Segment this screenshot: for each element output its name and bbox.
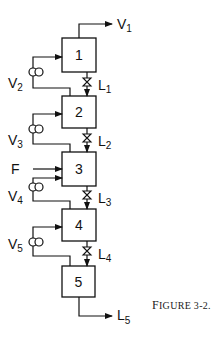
valve-icon <box>83 78 91 86</box>
l5-label: L5 <box>117 307 131 326</box>
v5-label: V5 <box>8 236 23 254</box>
stage-3: 3 <box>62 152 96 186</box>
cascade-diagram: 1 2 3 4 5 V1 L5 V2 <box>0 0 211 338</box>
valve-icon <box>83 247 91 255</box>
v4-label: V4 <box>8 188 23 206</box>
stream-l1: L1 <box>83 72 112 96</box>
l3-label: L3 <box>98 190 112 208</box>
compressor-icon <box>29 125 43 133</box>
v1-label: V1 <box>117 16 132 34</box>
figure-caption: FIGURE 3-2. <box>152 298 211 312</box>
compressor-icon <box>29 183 43 191</box>
stream-l3: L3 <box>83 186 112 209</box>
l2-label: L2 <box>98 133 112 151</box>
v3-label: V3 <box>8 132 23 150</box>
valve-icon <box>83 191 91 199</box>
compressor-icon <box>29 68 43 76</box>
stage-2: 2 <box>62 96 96 128</box>
stream-l4: L4 <box>83 241 112 266</box>
arrow-icon <box>79 24 112 38</box>
stream-v1: V1 <box>79 16 132 38</box>
stage-3-label: 3 <box>75 161 83 177</box>
compressor-icon <box>29 238 43 246</box>
feed-label: F <box>11 161 20 177</box>
stream-v5: V5 <box>8 227 70 266</box>
stage-4-label: 4 <box>75 217 83 233</box>
valve-icon <box>83 134 91 142</box>
stream-l5: L5 <box>79 297 131 326</box>
stage-2-label: 2 <box>75 104 83 120</box>
stage-5-label: 5 <box>75 274 83 290</box>
stream-l2: L2 <box>83 128 112 152</box>
stage-4: 4 <box>62 209 96 241</box>
arrow-icon <box>79 297 112 316</box>
stream-v3: V3 <box>8 114 70 152</box>
l1-label: L1 <box>98 77 112 95</box>
stage-1: 1 <box>62 38 96 72</box>
v2-label: V2 <box>8 75 23 93</box>
stage-1-label: 1 <box>75 47 83 63</box>
stream-v4: V4 <box>8 178 70 209</box>
l4-label: L4 <box>98 246 112 264</box>
stream-feed: F <box>11 161 62 177</box>
stream-v2: V2 <box>8 57 70 96</box>
stage-5: 5 <box>62 266 95 297</box>
